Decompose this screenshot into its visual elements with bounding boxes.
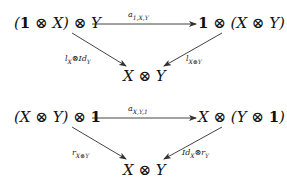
node-top-right-1: 1 ⊗ (X ⊗ Y): [198, 14, 285, 32]
node-top-left-2: (X ⊗ Y) ⊗ 1: [14, 108, 101, 126]
label-left-arrow-1: lX⊗IdY: [65, 54, 91, 65]
label-left-arrow-2: rX⊗Y: [72, 148, 89, 159]
label-top-arrow-1: a1,X,Y: [128, 10, 149, 21]
node-bottom-2: X ⊗ Y: [123, 161, 166, 179]
label-right-arrow-1: lX⊗Y: [186, 54, 202, 65]
label-right-arrow-2: IdX⊗rY: [182, 148, 209, 159]
node-top-left-1: (1 ⊗ X) ⊗ Y: [14, 14, 101, 32]
node-top-right-2: X ⊗ (Y ⊗ 1): [198, 108, 285, 126]
label-top-arrow-2: aX,Y,1: [128, 104, 148, 115]
node-bottom-1: X ⊗ Y: [123, 67, 166, 85]
